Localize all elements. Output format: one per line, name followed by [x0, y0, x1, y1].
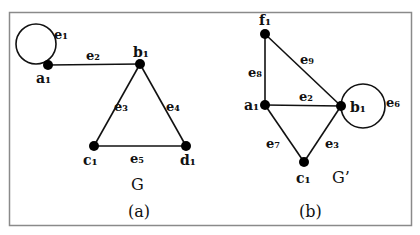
vertex-label-c1: c₁ — [83, 152, 98, 168]
edge-label-e8: e₈ — [248, 65, 262, 80]
edge-label-e2: e₂ — [299, 89, 313, 104]
figure-border — [10, 13, 412, 226]
vertex-label-b1: b₁ — [133, 44, 149, 60]
vertex-c1 — [299, 157, 309, 167]
graph-figure: e₁ e₂ e₃ e₄ e₅ a₁ b₁ c₁ d₁ G (a) f₁ a₁ b… — [0, 0, 420, 235]
edge-label-e6: e₆ — [386, 95, 400, 110]
edge-e7 — [265, 105, 304, 162]
vertex-a1 — [43, 60, 53, 70]
caption-b: (b) — [299, 202, 322, 221]
edge-label-e1: e₁ — [54, 27, 68, 42]
edge-label-e5: e₅ — [130, 151, 144, 166]
vertex-label-a1: a₁ — [36, 70, 51, 86]
edge-label-e4: e₄ — [166, 99, 180, 114]
vertex-label-d1: d₁ — [180, 152, 196, 168]
vertex-c1 — [89, 141, 99, 151]
edge-label-e9: e₉ — [300, 52, 314, 67]
edge-e1-loop — [16, 24, 56, 64]
edge-e3 — [304, 106, 341, 162]
vertex-b1 — [135, 59, 145, 69]
vertex-d1 — [181, 141, 191, 151]
edge-label-e7: e₇ — [266, 136, 280, 151]
vertex-f1 — [260, 29, 270, 39]
vertex-label-b1: b₁ — [350, 99, 366, 115]
edge-label-e3: e₃ — [325, 136, 339, 151]
vertex-a1 — [260, 100, 270, 110]
edge-label-e3: e₃ — [114, 99, 128, 114]
edge-e2 — [48, 64, 140, 65]
edge-e2 — [265, 105, 341, 106]
vertex-label-a1: a₁ — [244, 97, 259, 113]
graph-name-g: G — [131, 175, 144, 194]
edge-label-e2: e₂ — [86, 48, 100, 63]
vertex-label-f1: f₁ — [259, 12, 271, 28]
vertex-label-c1: c₁ — [296, 170, 311, 186]
vertex-b1 — [336, 101, 346, 111]
caption-a: (a) — [128, 202, 150, 221]
graph-name-g-prime: G’ — [332, 168, 350, 187]
